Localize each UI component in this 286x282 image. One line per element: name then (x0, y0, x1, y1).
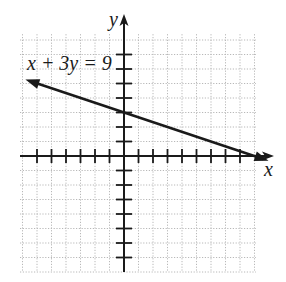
coordinate-plane: y x x + 3y = 9 (0, 0, 286, 282)
equation-label: x + 3y = 9 (26, 52, 112, 75)
line-series (25, 79, 268, 161)
y-axis-label: y (107, 8, 118, 31)
x-axis-label: x (263, 158, 273, 180)
line-arrow-left-icon (25, 79, 40, 88)
